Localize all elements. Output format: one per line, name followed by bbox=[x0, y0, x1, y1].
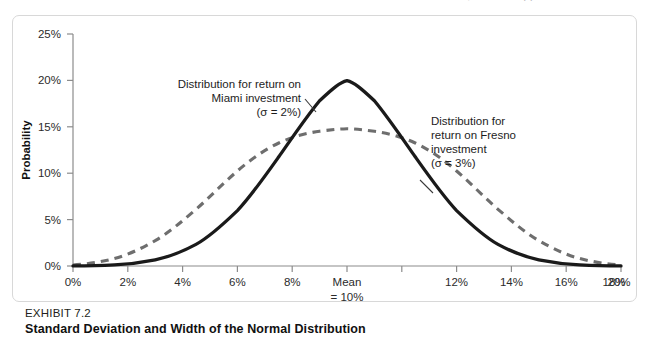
annotation-fresno-line4: (σ = 3%) bbox=[431, 157, 476, 169]
clipped-header-text: maximum loss is the amount of the entire… bbox=[190, 0, 562, 1]
normal-distribution-chart: 25% 20% 15% 10% 5% 0% Probability 0% 2% bbox=[13, 16, 636, 301]
mean-label-line1: Mean bbox=[333, 276, 362, 288]
x-tick-label-6: 6% bbox=[229, 276, 246, 288]
exhibit-caption: EXHIBIT 7.2 Standard Deviation and Width… bbox=[25, 306, 625, 338]
y-tick-label-15: 15% bbox=[38, 121, 61, 133]
annotation-fresno-line3: investment bbox=[431, 143, 487, 155]
x-axis-mean-label: Mean = 10% bbox=[331, 276, 364, 301]
y-tick-label-20: 20% bbox=[38, 74, 61, 86]
x-tick-label-0: 0% bbox=[65, 276, 82, 288]
x-tick-label-16: 16% bbox=[555, 276, 578, 288]
exhibit-title: Standard Deviation and Width of the Norm… bbox=[25, 321, 625, 338]
x-tick-label-2: 2% bbox=[119, 276, 136, 288]
annotation-miami: Distribution for return on Miami investm… bbox=[178, 78, 316, 118]
y-axis-title: Probability bbox=[20, 120, 32, 180]
mean-label-line2: = 10% bbox=[331, 291, 364, 301]
y-tick-label-0: 0% bbox=[44, 260, 61, 272]
annotation-fresno-leader-line bbox=[420, 180, 433, 193]
x-tick-label-12: 12% bbox=[445, 276, 468, 288]
y-tick-label-25: 25% bbox=[38, 28, 61, 40]
curve-fresno-dashed bbox=[73, 129, 621, 265]
chart-panel: 25% 20% 15% 10% 5% 0% Probability 0% 2% bbox=[12, 15, 637, 302]
annotation-fresno-line1: Distribution for bbox=[431, 115, 505, 127]
y-tick-label-10: 10% bbox=[38, 167, 61, 179]
x-tick-label-14: 14% bbox=[500, 276, 523, 288]
x-tick-label-8: 8% bbox=[284, 276, 301, 288]
y-axis-ticks bbox=[67, 34, 73, 266]
clipped-header-strip: maximum loss is the amount of the entire… bbox=[0, 0, 647, 9]
x-tick-label-4: 4% bbox=[174, 276, 191, 288]
x-axis-ticks bbox=[73, 266, 621, 272]
x-tick-label-18: 18% bbox=[602, 276, 625, 288]
y-tick-label-5: 5% bbox=[44, 214, 61, 226]
annotation-miami-line2: Miami investment bbox=[212, 92, 302, 104]
exhibit-number: EXHIBIT 7.2 bbox=[25, 306, 625, 321]
annotation-fresno-line2: return on Fresno bbox=[431, 129, 516, 141]
y-axis-tick-labels: 25% 20% 15% 10% 5% 0% bbox=[38, 28, 61, 272]
annotation-miami-line1: Distribution for return on bbox=[178, 78, 301, 90]
curve-miami-solid bbox=[73, 81, 621, 266]
annotation-miami-line3: (σ = 2%) bbox=[257, 106, 302, 118]
